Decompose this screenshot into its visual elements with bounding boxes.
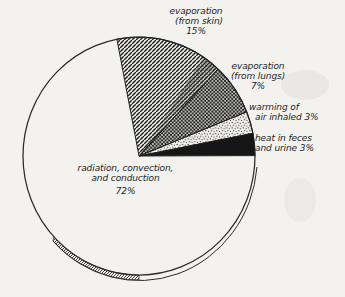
label-line: air inhaled 3% xyxy=(255,112,319,122)
label-evaporation-skin: evaporation (from skin) 15% xyxy=(145,6,247,36)
label-line: (from skin) xyxy=(151,16,247,26)
label-radiation-convection-conduction: radiation, convection, and conduction 72… xyxy=(68,163,183,196)
label-value: 7% xyxy=(221,81,295,91)
label-line: warming of xyxy=(249,102,319,112)
label-line: (from lungs) xyxy=(221,71,295,81)
label-line: and urine 3% xyxy=(255,143,314,153)
label-line: and conduction xyxy=(68,173,183,183)
label-feces-urine: heat in feces and urine 3% xyxy=(255,133,314,153)
label-value: 15% xyxy=(145,26,247,36)
label-line: evaporation xyxy=(145,6,247,16)
label-line: evaporation xyxy=(221,61,295,71)
paper-smudge xyxy=(284,178,316,222)
label-line: radiation, convection, xyxy=(68,163,183,173)
label-line: heat in feces xyxy=(255,133,314,143)
label-warming-air: warming of air inhaled 3% xyxy=(249,102,319,122)
label-value: 72% xyxy=(68,186,183,196)
pie-rim-hatch xyxy=(53,237,139,280)
label-evaporation-lungs: evaporation (from lungs) 7% xyxy=(221,61,295,91)
heat-loss-pie-figure: evaporation (from skin) 15% evaporation … xyxy=(0,0,345,297)
